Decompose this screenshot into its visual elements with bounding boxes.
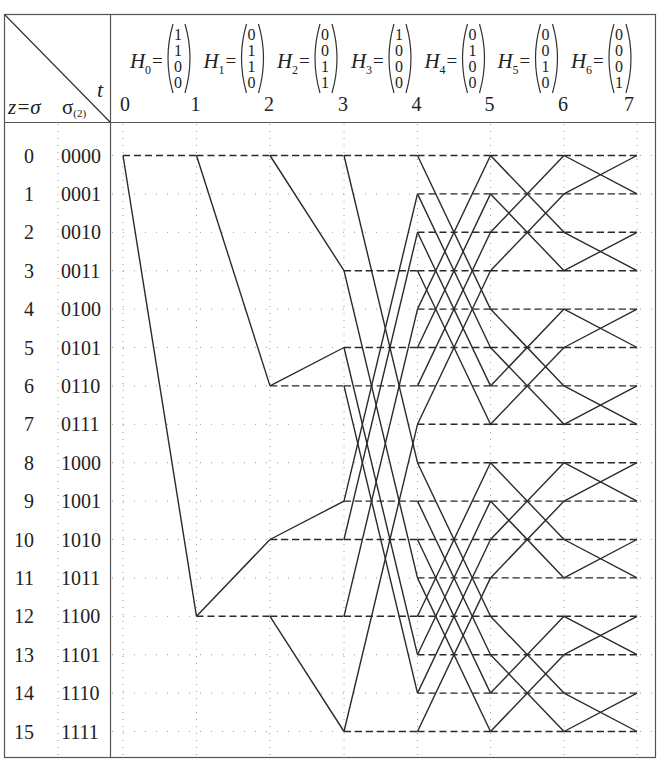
matrix-h3: H3=1000 xyxy=(350,24,411,93)
matrix-index: 0 xyxy=(145,63,151,77)
matrix-entry: 1 xyxy=(615,74,623,91)
matrix-h4: H4=0100 xyxy=(424,24,485,93)
matrix-h2: H2=0011 xyxy=(276,24,337,93)
state-binary: 0001 xyxy=(61,183,101,205)
state-binary: 1010 xyxy=(61,529,101,551)
state-index: 13 xyxy=(14,644,34,666)
matrix-index: 2 xyxy=(292,63,298,77)
matrix-entry: 1 xyxy=(469,42,477,59)
matrix-entry: 1 xyxy=(321,58,329,75)
matrix-entry: 1 xyxy=(174,26,182,43)
time-label: 4 xyxy=(412,93,422,115)
equals-sign: = xyxy=(373,50,384,71)
trellis-edges xyxy=(123,156,637,732)
matrix-index: 1 xyxy=(219,63,225,77)
right-paren xyxy=(259,24,264,93)
corner-row-label: z=σ xyxy=(7,95,42,119)
state-index: 0 xyxy=(24,145,34,167)
edge-bit1 xyxy=(197,540,271,617)
state-index: 7 xyxy=(24,413,34,435)
state-binary: 0010 xyxy=(61,221,101,243)
matrix-entry: 0 xyxy=(321,26,329,43)
equals-sign: = xyxy=(299,50,310,71)
state-binary: 0101 xyxy=(61,337,101,359)
state-index: 2 xyxy=(24,221,34,243)
left-paren xyxy=(536,24,541,93)
matrix-entry: 0 xyxy=(469,58,477,75)
time-label: 6 xyxy=(558,93,568,115)
matrix-entry: 1 xyxy=(174,42,182,59)
matrix-entry: 0 xyxy=(542,42,550,59)
state-index: 12 xyxy=(14,605,34,627)
matrix-entry: 0 xyxy=(469,26,477,43)
matrix-entry: 0 xyxy=(615,26,623,43)
left-paren xyxy=(463,24,468,93)
matrix-entry: 0 xyxy=(615,42,623,59)
matrix-index: 5 xyxy=(513,63,519,77)
state-binary: 0000 xyxy=(61,145,101,167)
matrix-entry: 0 xyxy=(174,74,182,91)
state-binary: 1101 xyxy=(61,644,100,666)
matrix-h1: H1=0110 xyxy=(203,24,264,93)
state-index: 9 xyxy=(24,490,34,512)
state-index: 14 xyxy=(14,682,34,704)
edge-bit1 xyxy=(270,156,344,271)
edge-bit1 xyxy=(270,616,344,731)
time-label: 1 xyxy=(191,93,201,115)
state-binary: 1001 xyxy=(61,490,101,512)
trellis-diagram: z=σ σ(2) t H0=1100H1=0110H2=0011H3=1000H… xyxy=(0,0,662,769)
right-paren xyxy=(185,24,190,93)
edge-bit1 xyxy=(344,424,418,731)
corner-binary-label: σ(2) xyxy=(62,95,86,120)
matrix-entry: 0 xyxy=(542,74,550,91)
state-binary: 0011 xyxy=(61,260,100,282)
right-paren xyxy=(626,24,631,93)
left-paren xyxy=(242,24,247,93)
matrix-entry: 0 xyxy=(395,74,403,91)
edge-bit1 xyxy=(344,271,418,578)
matrix-index: 4 xyxy=(440,63,446,77)
matrix-entry: 0 xyxy=(248,26,256,43)
edge-bit1 xyxy=(270,348,344,386)
state-binary: 1011 xyxy=(61,567,100,589)
equals-sign: = xyxy=(152,50,163,71)
left-paren xyxy=(609,24,614,93)
edge-bit1 xyxy=(344,156,418,463)
time-label: 7 xyxy=(624,93,634,115)
edge-bit1 xyxy=(270,501,344,539)
matrix-h5: H5=0010 xyxy=(497,24,558,93)
left-paren xyxy=(315,24,320,93)
transition-matrices: H0=1100H1=0110H2=0011H3=1000H4=0100H5=00… xyxy=(129,24,631,93)
right-paren xyxy=(553,24,558,93)
right-paren xyxy=(406,24,411,93)
equals-sign: = xyxy=(447,50,458,71)
right-paren xyxy=(332,24,337,93)
equals-sign: = xyxy=(226,50,237,71)
state-binary: 1000 xyxy=(61,452,101,474)
state-index: 5 xyxy=(24,337,34,359)
state-index: 15 xyxy=(14,721,34,743)
state-index: 11 xyxy=(15,567,34,589)
state-index: 8 xyxy=(24,452,34,474)
state-index: 3 xyxy=(24,260,34,282)
left-paren xyxy=(168,24,173,93)
matrix-entry: 1 xyxy=(542,58,550,75)
matrix-entry: 1 xyxy=(395,26,403,43)
matrix-entry: 1 xyxy=(321,74,329,91)
state-binary: 1100 xyxy=(61,605,100,627)
matrix-entry: 0 xyxy=(469,74,477,91)
left-paren xyxy=(389,24,394,93)
state-binary: 1110 xyxy=(61,682,100,704)
state-binary: 1111 xyxy=(61,721,99,743)
state-binary: 0111 xyxy=(61,413,100,435)
state-index: 4 xyxy=(24,298,34,320)
edge-bit1 xyxy=(197,156,271,386)
state-labels: 0000010001200103001140100501016011070111… xyxy=(14,145,101,743)
time-label: 2 xyxy=(264,93,274,115)
time-label: 3 xyxy=(338,93,348,115)
matrix-entry: 1 xyxy=(248,42,256,59)
matrix-entry: 0 xyxy=(395,58,403,75)
matrix-h0: H0=1100 xyxy=(129,24,190,93)
matrix-entry: 0 xyxy=(248,74,256,91)
state-binary: 0110 xyxy=(61,375,100,397)
